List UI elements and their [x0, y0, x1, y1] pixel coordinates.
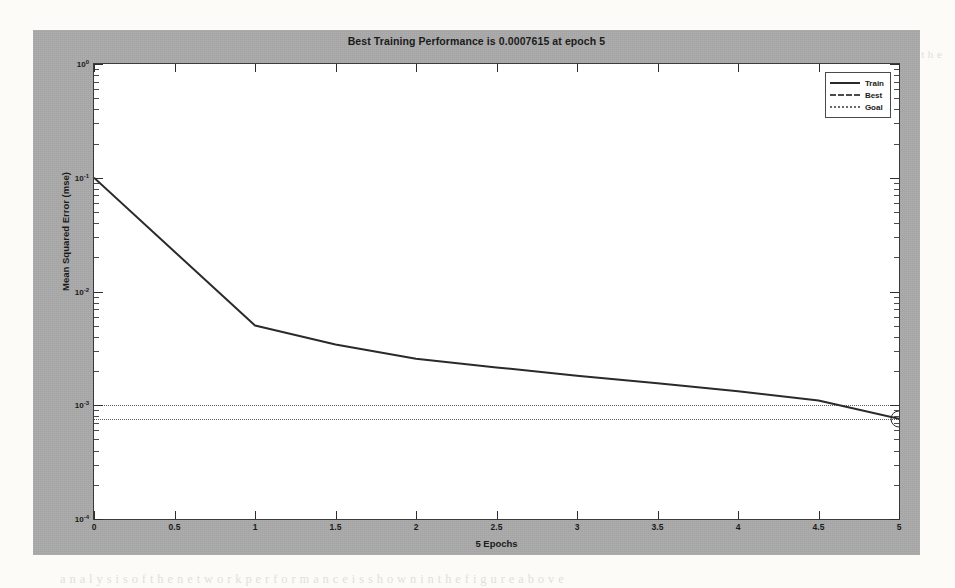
y-tick-minor: [94, 410, 99, 411]
x-tick: [255, 511, 256, 519]
y-tick-minor: [94, 109, 99, 110]
x-tick-label: 2: [414, 522, 419, 532]
y-tick-minor: [894, 98, 899, 99]
y-tick-major: [890, 178, 899, 179]
y-tick-minor: [894, 451, 899, 452]
y-tick-minor: [94, 89, 99, 90]
y-tick-minor: [894, 109, 899, 110]
x-tick-label: 2.5: [491, 522, 503, 532]
legend-item-best: Best: [830, 89, 884, 101]
y-tick-minor: [94, 123, 99, 124]
y-tick-minor: [894, 189, 899, 190]
x-tick: [577, 511, 578, 519]
x-tick: [738, 511, 739, 519]
y-tick-minor: [94, 337, 99, 338]
y-tick-minor: [94, 351, 99, 352]
scanned-page: a n t e r r o r r a t e w a s o b t a i …: [0, 0, 955, 588]
y-tick-label: 100: [77, 59, 89, 70]
y-tick-minor: [894, 223, 899, 224]
x-tick: [94, 64, 95, 72]
performance-figure: Best Training Performance is 0.0007615 a…: [33, 30, 920, 555]
x-tick: [658, 64, 659, 72]
x-tick-label: 1.5: [330, 522, 342, 532]
x-tick: [658, 511, 659, 519]
bleed-text: a n a l y s i s o f t h e n e t w o r k …: [60, 572, 564, 587]
x-tick-label: 0: [92, 522, 97, 532]
y-tick-minor: [94, 183, 99, 184]
y-tick-minor: [94, 309, 99, 310]
y-tick-minor: [94, 371, 99, 372]
y-tick-label: 10-3: [75, 400, 89, 411]
y-tick-major: [94, 178, 103, 179]
y-tick-minor: [894, 317, 899, 318]
y-tick-minor: [94, 195, 99, 196]
y-tick-minor: [94, 416, 99, 417]
y-tick-minor: [94, 326, 99, 327]
train-curve: [94, 64, 899, 519]
y-tick-minor: [894, 485, 899, 486]
x-tick: [899, 511, 900, 519]
y-tick-minor: [94, 212, 99, 213]
y-tick-minor: [894, 82, 899, 83]
x-tick-label: 5: [897, 522, 902, 532]
y-tick-minor: [894, 326, 899, 327]
legend-label: Goal: [865, 103, 883, 112]
x-tick: [497, 511, 498, 519]
legend-item-train: Train: [830, 77, 884, 89]
y-tick-minor: [94, 203, 99, 204]
y-tick-minor: [94, 223, 99, 224]
x-tick: [255, 64, 256, 72]
y-tick-minor: [894, 410, 899, 411]
x-axis-label: 5 Epochs: [93, 538, 900, 549]
x-tick: [416, 64, 417, 72]
y-tick-minor: [94, 423, 99, 424]
chart-title: Best Training Performance is 0.0007615 a…: [33, 35, 920, 47]
y-tick-minor: [894, 309, 899, 310]
legend-swatch: [830, 94, 860, 96]
y-tick-major: [94, 519, 103, 520]
y-tick-minor: [894, 416, 899, 417]
y-tick-minor: [894, 212, 899, 213]
y-tick-minor: [894, 351, 899, 352]
x-tick: [819, 511, 820, 519]
x-tick: [497, 64, 498, 72]
y-tick-minor: [94, 189, 99, 190]
x-tick: [819, 64, 820, 72]
y-tick-minor: [894, 371, 899, 372]
x-tick-label: 1: [253, 522, 258, 532]
y-tick-minor: [894, 423, 899, 424]
y-tick-minor: [94, 98, 99, 99]
x-tick: [416, 511, 417, 519]
y-tick-major: [890, 292, 899, 293]
y-tick-minor: [94, 439, 99, 440]
x-tick: [175, 64, 176, 72]
y-tick-minor: [894, 195, 899, 196]
y-tick-minor: [94, 82, 99, 83]
y-tick-minor: [894, 430, 899, 431]
x-tick-label: 4: [736, 522, 741, 532]
y-tick-minor: [94, 257, 99, 258]
y-tick-minor: [94, 297, 99, 298]
y-tick-minor: [94, 485, 99, 486]
y-tick-minor: [894, 337, 899, 338]
x-tick: [577, 64, 578, 72]
plot-area: TrainBestGoal: [94, 64, 899, 519]
legend-swatch: [830, 106, 860, 108]
legend-label: Train: [865, 79, 884, 88]
x-tick-label: 3: [575, 522, 580, 532]
y-tick-minor: [94, 465, 99, 466]
chart-legend: TrainBestGoal: [825, 72, 891, 118]
y-tick-minor: [94, 144, 99, 145]
y-axis-label: Mean Squared Error (mse): [60, 3, 71, 460]
y-tick-minor: [894, 89, 899, 90]
y-tick-minor: [94, 237, 99, 238]
x-tick-label: 4.5: [813, 522, 825, 532]
legend-item-goal: Goal: [830, 101, 884, 113]
plot-axes: TrainBestGoal 10010-110-210-310-4 00.511…: [93, 63, 900, 520]
y-tick-minor: [894, 257, 899, 258]
x-tick-label: 0.5: [169, 522, 181, 532]
y-tick-minor: [94, 75, 99, 76]
y-tick-major: [890, 519, 899, 520]
y-tick-minor: [94, 317, 99, 318]
y-tick-minor: [94, 303, 99, 304]
